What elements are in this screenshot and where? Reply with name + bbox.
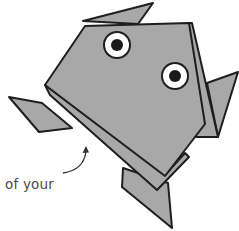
right-eye	[162, 63, 188, 89]
left-eye	[104, 32, 130, 58]
pointer-arrow-icon	[63, 146, 89, 173]
top-flap	[83, 3, 153, 24]
origami-frog-illustration: of your	[0, 0, 239, 231]
caption-text: of your	[5, 176, 54, 192]
